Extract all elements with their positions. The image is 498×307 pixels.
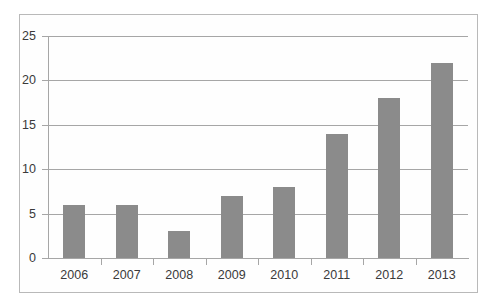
y-tick-label: 10 — [10, 163, 36, 176]
x-tick — [363, 259, 364, 265]
bar-2011 — [326, 134, 348, 258]
y-tick-label: 0 — [10, 252, 36, 265]
gridline-10 — [48, 169, 468, 170]
bar-2013 — [431, 63, 453, 258]
x-tick — [416, 259, 417, 265]
gridline-20 — [48, 80, 468, 81]
gridline-5 — [48, 214, 468, 215]
bar-2009 — [221, 196, 243, 258]
x-tick-label-2009: 2009 — [206, 269, 258, 282]
x-tick-label-2011: 2011 — [311, 269, 363, 282]
x-tick-label-2012: 2012 — [363, 269, 415, 282]
x-axis-line — [42, 258, 469, 259]
x-tick — [206, 259, 207, 265]
x-tick — [311, 259, 312, 265]
bar-2008 — [168, 231, 190, 258]
x-tick-label-2008: 2008 — [153, 269, 205, 282]
gridline-25 — [48, 36, 468, 37]
y-tick-label: 15 — [10, 119, 36, 132]
bar-2007 — [116, 205, 138, 258]
x-tick-label-2010: 2010 — [258, 269, 310, 282]
y-tick-label: 5 — [10, 207, 36, 220]
x-tick-label-2006: 2006 — [48, 269, 100, 282]
y-tick-label: 20 — [10, 74, 36, 87]
bar-2006 — [63, 205, 85, 258]
x-tick-label-2007: 2007 — [101, 269, 153, 282]
x-tick — [101, 259, 102, 265]
gridline-15 — [48, 125, 468, 126]
plot-area — [48, 36, 468, 258]
bar-2012 — [378, 98, 400, 258]
y-tick-label: 25 — [10, 30, 36, 43]
x-tick — [153, 259, 154, 265]
bar-2010 — [273, 187, 295, 258]
x-tick-label-2013: 2013 — [416, 269, 468, 282]
x-tick — [258, 259, 259, 265]
